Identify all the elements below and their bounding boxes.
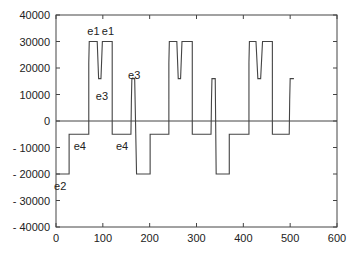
y-tick-label: - 10000 bbox=[13, 142, 50, 154]
y-tick-label: - 20000 bbox=[13, 168, 50, 180]
chart: 40000 30000 20000 10000 0 - 10000 - 2000… bbox=[0, 0, 349, 253]
annotation-label: e4 bbox=[74, 140, 86, 152]
annotation-label: e1 bbox=[87, 25, 99, 37]
x-tick-label: 500 bbox=[281, 232, 299, 244]
x-tick-label: 300 bbox=[187, 232, 205, 244]
x-tick-label: 200 bbox=[140, 232, 158, 244]
series-line-signal bbox=[56, 42, 294, 175]
x-tick-label: 400 bbox=[234, 232, 252, 244]
y-tick-label: - 40000 bbox=[13, 221, 50, 233]
x-tick-label: 100 bbox=[94, 232, 112, 244]
y-tick-label: 30000 bbox=[19, 36, 50, 48]
y-tick-label: 20000 bbox=[19, 62, 50, 74]
x-axis-tick-labels: 0 100 200 300 400 500 600 bbox=[53, 232, 346, 244]
y-tick-label: 40000 bbox=[19, 9, 50, 21]
x-tick-label: 0 bbox=[53, 232, 59, 244]
y-tick-label: 10000 bbox=[19, 89, 50, 101]
y-tick-label: - 30000 bbox=[13, 195, 50, 207]
annotation-label: e4 bbox=[116, 140, 128, 152]
y-axis-tick-labels: 40000 30000 20000 10000 0 - 10000 - 2000… bbox=[13, 9, 50, 233]
annotation-label: e2 bbox=[54, 180, 66, 192]
y-tick-label: 0 bbox=[44, 115, 50, 127]
x-tick-label: 600 bbox=[328, 232, 346, 244]
annotation-label: e3 bbox=[96, 90, 108, 102]
annotation-label: e3 bbox=[128, 69, 140, 81]
annotation-label: e1 bbox=[102, 25, 114, 37]
